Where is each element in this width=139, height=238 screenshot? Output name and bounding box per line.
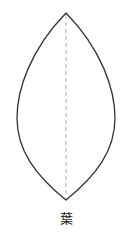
leaf-diagram	[0, 0, 139, 238]
leaf-label: 葉	[0, 211, 133, 227]
